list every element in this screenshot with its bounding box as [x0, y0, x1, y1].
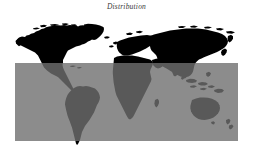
caribbean-path — [70, 65, 82, 68]
south-america-path — [65, 86, 100, 145]
papua-new-guinea-path — [214, 89, 224, 93]
world-map-silhouette — [0, 0, 253, 157]
tasmania-path — [211, 121, 215, 124]
arabia-path — [152, 58, 165, 68]
new-zealand-path — [226, 119, 234, 130]
australia-path — [190, 97, 220, 120]
indonesia-path — [182, 76, 215, 91]
iceland-path — [104, 36, 110, 38]
world-map-svg — [0, 0, 253, 157]
japan-path — [221, 49, 227, 56]
landmasses — [16, 23, 236, 145]
distribution-map-figure: Distribution — [0, 0, 253, 157]
africa-path — [113, 55, 153, 119]
madagascar-path — [154, 99, 159, 108]
kamchatka-path — [228, 35, 233, 43]
asia-path — [150, 28, 228, 77]
philippines-path — [206, 72, 211, 77]
